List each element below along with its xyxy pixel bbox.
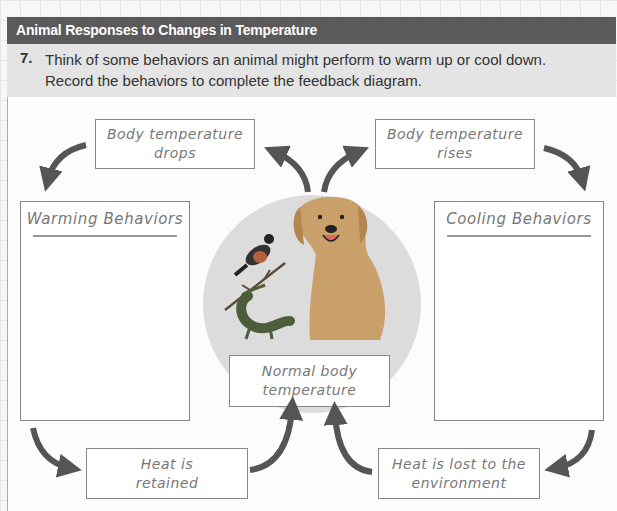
arrow-retained-to-center-icon xyxy=(250,408,292,470)
arrow-center-to-rises-icon xyxy=(324,152,358,192)
arrow-drops-to-warming-icon xyxy=(48,145,86,180)
arrow-warming-to-retained-icon xyxy=(33,428,70,468)
arrow-cooling-to-lost-icon xyxy=(556,430,592,468)
arrow-rises-to-cooling-icon xyxy=(544,148,582,180)
arrow-center-to-drops-icon xyxy=(275,152,308,192)
arrow-lost-to-center-icon xyxy=(335,413,372,472)
